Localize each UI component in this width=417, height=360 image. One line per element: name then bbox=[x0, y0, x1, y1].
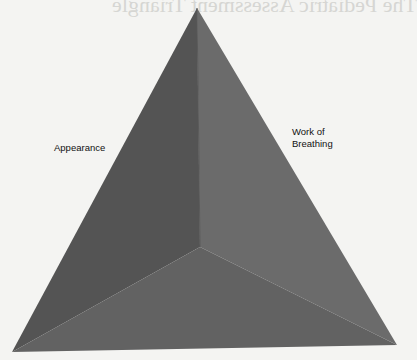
work-of-breathing-label: Work of Breathing bbox=[292, 126, 333, 150]
appearance-label: Appearance bbox=[54, 142, 105, 154]
work-of-breathing-line1: Work of bbox=[292, 126, 333, 138]
work-of-breathing-line2: Breathing bbox=[292, 138, 333, 150]
